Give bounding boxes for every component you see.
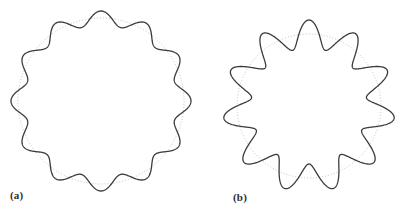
reference-circle-dotted-b [237, 34, 381, 178]
panel-caption-b: (b) [233, 192, 247, 203]
reference-circle-dotted-a [18, 18, 184, 184]
figure-panel: (a) (b) [0, 0, 400, 217]
panel-b-group [224, 20, 394, 189]
panel-a-group [11, 11, 191, 191]
wavy-circle-curve-a [11, 11, 191, 191]
wavy-circle-curve-b [224, 20, 394, 189]
figure-svg [0, 0, 400, 217]
panel-caption-a: (a) [10, 190, 23, 201]
